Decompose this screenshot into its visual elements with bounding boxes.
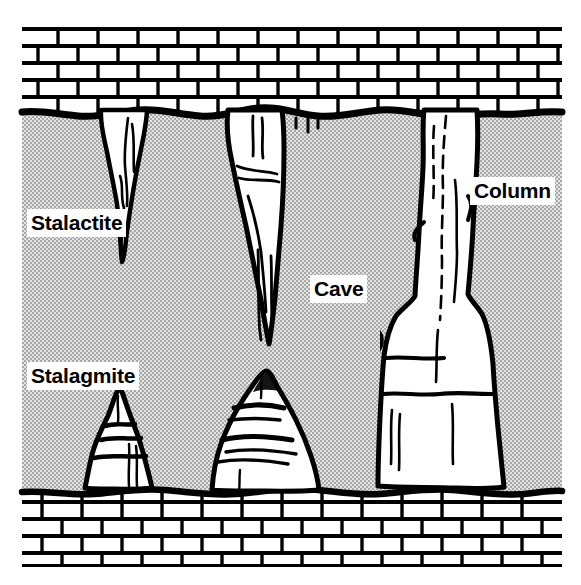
cave-diagram-figure: Stalactite Stalagmite Cave Column xyxy=(0,0,581,585)
label-cave: Cave xyxy=(310,275,367,303)
ceiling-bedrock xyxy=(20,25,564,120)
floor-bedrock xyxy=(20,485,564,571)
cave-cross-section-illustration xyxy=(0,0,581,585)
label-stalactite: Stalactite xyxy=(27,209,126,237)
label-column: Column xyxy=(470,177,555,205)
label-stalagmite: Stalagmite xyxy=(27,362,139,390)
